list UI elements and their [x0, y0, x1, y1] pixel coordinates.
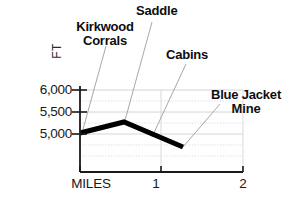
- annotation-kirkwood-corrals: Kirkwood Corrals: [62, 20, 148, 48]
- elevation-profile-figure: FT 6,000 5,500 5,000 MILES 1 2 Kirkwood …: [0, 0, 298, 198]
- annotation-kirkwood-line1: Kirkwood: [76, 19, 134, 34]
- leader-line-cabins: [152, 64, 186, 137]
- x-ticklabel-1: 1: [145, 176, 167, 191]
- annotation-blue-jacket-line2: Mine: [198, 102, 294, 116]
- x-ticklabel-2: 2: [232, 176, 254, 191]
- elevation-profile-line: [80, 122, 183, 147]
- y-ticklabel-6000: 6,000: [16, 82, 72, 97]
- annotation-blue-jacket-mine: Blue Jacket Mine: [198, 88, 294, 116]
- y-ticklabel-5500: 5,500: [16, 104, 72, 119]
- annotation-cabins: Cabins: [166, 48, 230, 62]
- annotation-blue-jacket-line1: Blue Jacket: [211, 87, 281, 102]
- annotation-kirkwood-line2: Corrals: [83, 33, 127, 48]
- x-axis-label-miles: MILES: [52, 176, 130, 191]
- y-ticklabel-5000: 5,000: [16, 126, 72, 141]
- annotation-saddle: Saddle: [136, 4, 206, 18]
